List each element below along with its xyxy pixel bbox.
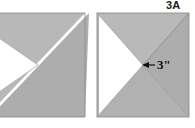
left-square <box>0 13 89 117</box>
figure-stage: 3A 3" <box>0 0 195 128</box>
dimension-label: 3" <box>157 58 171 71</box>
figure-label-3a: 3A <box>166 0 180 11</box>
right-square <box>97 13 189 117</box>
